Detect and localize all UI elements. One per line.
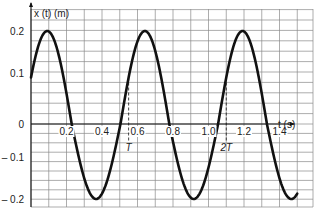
x-tick-label: 0.6 bbox=[131, 126, 145, 137]
x-tick-label: 0.4 bbox=[95, 126, 109, 137]
displacement-curve bbox=[31, 31, 297, 199]
x-tick-label: 0.2 bbox=[60, 126, 74, 137]
y-tick-label: – 0.1 bbox=[2, 152, 25, 163]
double-period-marker-label: 2T bbox=[219, 142, 233, 153]
period-markers: T2T bbox=[126, 78, 233, 154]
y-tick-label: 0.2 bbox=[10, 26, 24, 37]
x-tick-label: 1.0 bbox=[202, 126, 216, 137]
y-tick-label: 0.1 bbox=[10, 68, 24, 79]
y-tick-label: 0 bbox=[18, 119, 24, 130]
y-axis-title: x (t) (m) bbox=[34, 8, 69, 19]
grid bbox=[31, 9, 313, 207]
y-tick-label: – 0.2 bbox=[2, 194, 25, 205]
displacement-time-chart: T2T 0.20.40.60.81.01.21.40.20.10– 0.1– 0… bbox=[0, 0, 320, 217]
x-tick-label: 0.8 bbox=[166, 126, 180, 137]
tick-labels: 0.20.40.60.81.01.21.40.20.10– 0.1– 0.2 bbox=[2, 26, 288, 205]
x-tick-label: 1.2 bbox=[237, 126, 251, 137]
period-marker-label: T bbox=[126, 142, 133, 153]
x-axis-title: t (s) bbox=[278, 119, 295, 130]
